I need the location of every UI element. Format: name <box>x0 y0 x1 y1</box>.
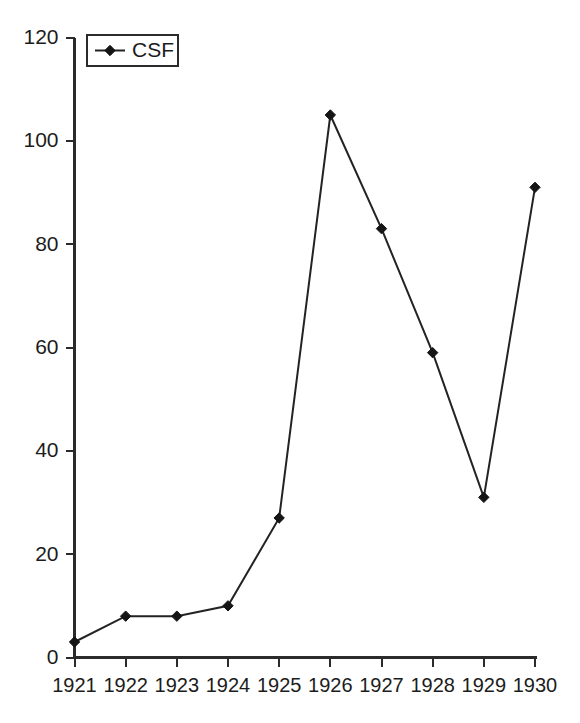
data-point-marker <box>223 601 233 611</box>
y-axis-tick-labels: 120 100 80 60 40 20 0 <box>23 25 58 668</box>
chart-figure: 120 100 80 60 40 20 0 1921 1922 1923 192… <box>0 0 580 723</box>
data-point-marker <box>530 182 540 192</box>
x-tick-label-1928: 1928 <box>410 674 455 696</box>
x-tick-label-1921: 1921 <box>52 674 97 696</box>
x-axis-ticks <box>75 658 536 667</box>
data-point-marker <box>427 347 437 357</box>
y-tick-label-100: 100 <box>23 128 58 151</box>
series-markers-csf <box>69 110 540 647</box>
x-tick-label-1927: 1927 <box>359 674 404 696</box>
line-chart: 120 100 80 60 40 20 0 1921 1922 1923 192… <box>0 0 580 723</box>
x-tick-label-1925: 1925 <box>257 674 302 696</box>
y-axis-ticks <box>66 38 75 658</box>
y-tick-label-40: 40 <box>35 438 58 461</box>
y-tick-label-0: 0 <box>47 645 59 668</box>
legend-label-csf: CSF <box>132 38 174 61</box>
data-point-marker <box>479 492 489 502</box>
series-line-csf <box>75 115 536 642</box>
x-tick-label-1930: 1930 <box>513 674 558 696</box>
data-point-marker <box>69 637 79 647</box>
y-tick-label-60: 60 <box>35 335 58 358</box>
data-point-marker <box>120 611 130 621</box>
data-point-marker <box>376 223 386 233</box>
legend: CSF <box>87 35 178 66</box>
x-tick-label-1923: 1923 <box>155 674 200 696</box>
y-tick-label-20: 20 <box>35 542 58 565</box>
data-point-marker <box>172 611 182 621</box>
x-tick-label-1926: 1926 <box>308 674 353 696</box>
x-tick-label-1922: 1922 <box>103 674 148 696</box>
x-tick-label-1929: 1929 <box>462 674 507 696</box>
x-tick-label-1924: 1924 <box>206 674 251 696</box>
data-point-marker <box>274 513 284 523</box>
y-tick-label-80: 80 <box>35 232 58 255</box>
y-tick-label-120: 120 <box>23 25 58 48</box>
x-axis-tick-labels: 1921 1922 1923 1924 1925 1926 1927 1928 … <box>52 674 557 696</box>
data-point-marker <box>325 110 335 120</box>
